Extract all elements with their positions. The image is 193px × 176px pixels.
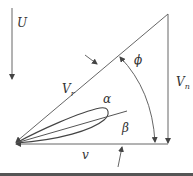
phi-arc-start-arrow: [120, 57, 124, 62]
vn-label: Vn: [176, 75, 190, 91]
bottom-border: [0, 173, 193, 176]
airfoil-shape: [16, 108, 108, 143]
vr-label: Vr: [62, 82, 76, 98]
relative-velocity-line: [16, 14, 168, 142]
chord-line: [16, 111, 127, 143]
velocity-triangle-diagram: U Vr Vn v ϕ α β: [0, 0, 193, 176]
alpha-pointer-arrow: [85, 55, 97, 64]
v-label: v: [82, 148, 89, 162]
alpha-label: α: [103, 92, 111, 106]
beta-pointer-arrow: [118, 147, 122, 167]
phi-label: ϕ: [134, 53, 142, 67]
u-label: U: [17, 16, 28, 30]
beta-label: β: [121, 121, 129, 135]
